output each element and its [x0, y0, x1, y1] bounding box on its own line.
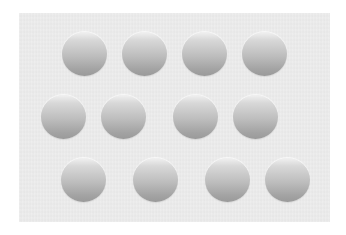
- shaded-disc: [265, 158, 310, 202]
- shaded-disc: [101, 95, 146, 139]
- shaded-disc: [133, 158, 178, 202]
- shaded-disc: [205, 158, 250, 202]
- shaded-disc: [182, 32, 227, 76]
- shaded-disc: [62, 32, 107, 76]
- shaded-disc: [173, 95, 218, 139]
- image-stage: [0, 0, 346, 235]
- shaded-disc: [242, 32, 287, 76]
- shaded-disc: [233, 95, 278, 139]
- shaded-disc: [61, 158, 106, 202]
- shaded-disc: [41, 95, 86, 139]
- shaded-disc: [122, 32, 167, 76]
